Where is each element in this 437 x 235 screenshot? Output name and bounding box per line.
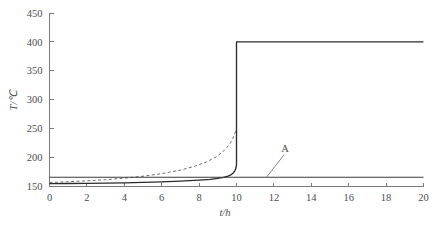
- temperature-vs-time-chart: 150200250300350400450 02468101214161820 …: [0, 0, 437, 235]
- x-tick-label: 4: [122, 192, 128, 203]
- x-tick-label: 12: [269, 192, 280, 203]
- y-tick-label: 150: [27, 181, 43, 192]
- x-tick-label: 18: [381, 192, 392, 203]
- data-series-group: [50, 42, 424, 184]
- x-tick-label: 16: [343, 192, 354, 203]
- annotation-group: A: [266, 143, 289, 177]
- x-tick-label: 6: [159, 192, 164, 203]
- x-tick-label: 20: [418, 192, 429, 203]
- chart-figure: 150200250300350400450 02468101214161820 …: [0, 0, 437, 235]
- series-step-curve: [50, 42, 424, 184]
- x-tick-label: 14: [306, 192, 317, 203]
- x-axis-ticks: 02468101214161820: [47, 183, 429, 203]
- y-tick-label: 300: [27, 94, 43, 105]
- annotation-label-a: A: [281, 143, 289, 154]
- y-tick-label: 400: [27, 37, 43, 48]
- y-tick-label: 200: [27, 152, 43, 163]
- y-tick-label: 350: [27, 65, 43, 76]
- x-tick-label: 10: [231, 192, 242, 203]
- x-tick-label: 8: [196, 192, 201, 203]
- y-axis-title: T/℃: [8, 89, 19, 111]
- x-axis-title: t/h: [219, 207, 230, 218]
- x-tick-label: 0: [47, 192, 52, 203]
- annotation-leader-line: [266, 155, 284, 177]
- y-tick-label: 250: [27, 123, 43, 134]
- y-tick-label: 450: [27, 8, 43, 19]
- series-divergent-dashed-curve: [50, 129, 237, 183]
- x-tick-label: 2: [84, 192, 89, 203]
